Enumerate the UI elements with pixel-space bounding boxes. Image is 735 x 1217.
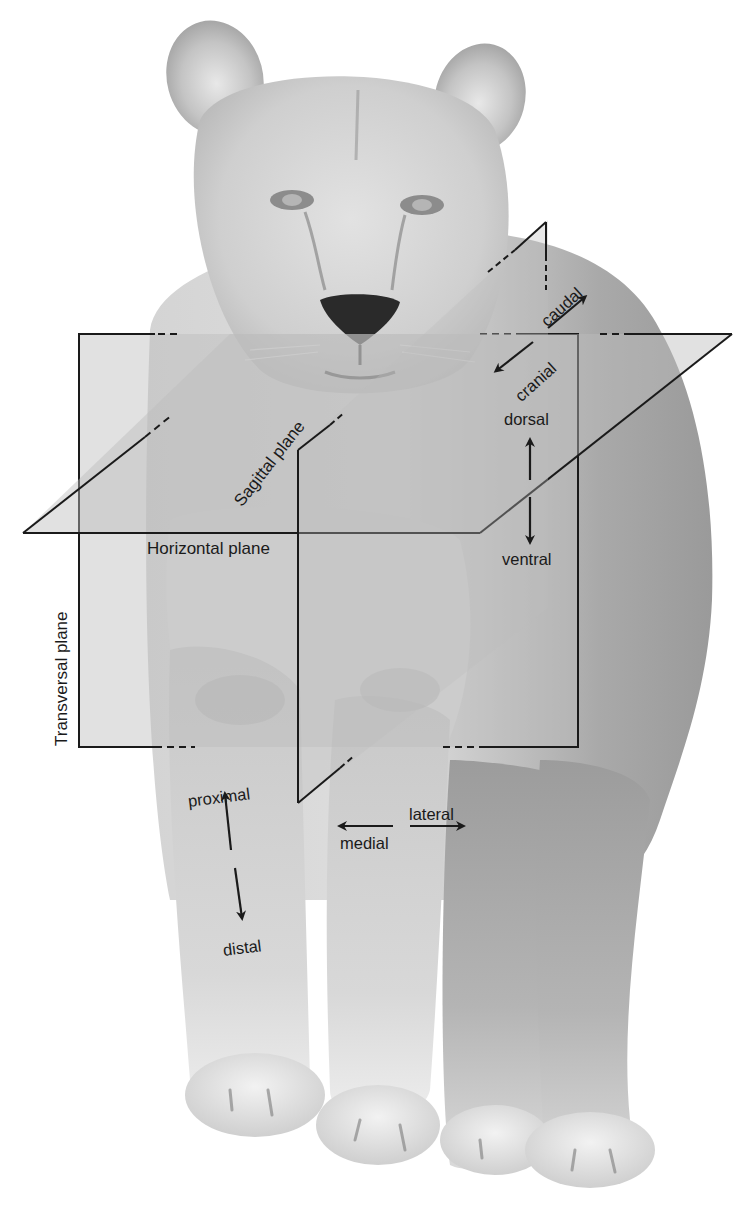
dorsal-label: dorsal xyxy=(504,411,549,428)
paw-front-right xyxy=(185,1053,325,1137)
horizontal-plane-label: Horizontal plane xyxy=(147,540,270,557)
paw-front-left xyxy=(316,1085,440,1165)
ventral-label: ventral xyxy=(502,551,552,568)
medial-label: medial xyxy=(340,835,389,852)
anatomical-planes-figure: Transversal plane Sagittal plane Horizon… xyxy=(0,0,735,1217)
paw-rear-right xyxy=(525,1112,655,1188)
lioness-illustration xyxy=(0,0,735,1217)
transversal-plane-label: Transversal plane xyxy=(53,612,70,747)
lateral-label: lateral xyxy=(409,806,454,823)
